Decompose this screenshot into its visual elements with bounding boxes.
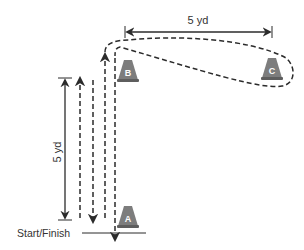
vertical-measurement-label: 5 yd xyxy=(51,142,63,163)
cone-a-label: A xyxy=(125,214,132,224)
drill-diagram: 5 yd 5 yd B C A Start/Finish xyxy=(0,0,304,250)
cone-a-icon: A xyxy=(117,206,139,228)
cone-c-icon: C xyxy=(261,58,283,80)
run-paths xyxy=(80,38,293,240)
horizontal-measurement: 5 yd xyxy=(125,14,272,38)
cone-c-label: C xyxy=(269,66,276,76)
start-finish-label: Start/Finish xyxy=(17,227,70,239)
cone-b-label: B xyxy=(125,68,132,78)
vertical-measurement: 5 yd xyxy=(51,78,72,220)
horizontal-measurement-label: 5 yd xyxy=(188,14,209,26)
cone-b-icon: B xyxy=(117,60,139,82)
